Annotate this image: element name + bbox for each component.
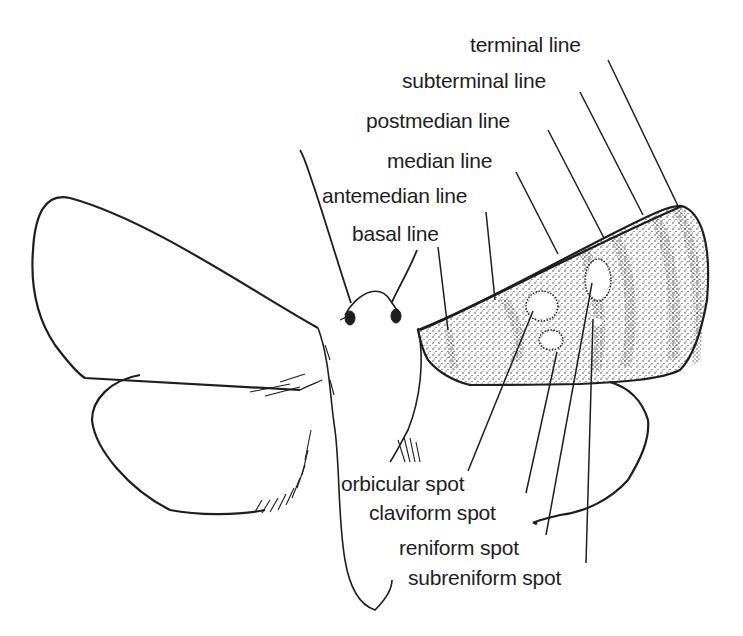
- label-claviform-spot: claviform spot: [369, 502, 496, 524]
- right-antenna: [392, 250, 417, 302]
- left-antenna: [300, 150, 351, 303]
- label-reniform-spot: reniform spot: [399, 537, 519, 559]
- moth-diagram: terminal line subterminal line postmedia…: [0, 0, 743, 636]
- label-subterminal-line: subterminal line: [402, 70, 546, 92]
- label-terminal-line: terminal line: [470, 34, 581, 56]
- label-median-line: median line: [387, 150, 492, 172]
- label-antemedian-line: antemedian line: [322, 185, 467, 207]
- left-forewing: [32, 197, 318, 390]
- moth-illustration: [0, 0, 743, 636]
- right-forewing: [418, 206, 708, 385]
- label-subreniform-spot: subreniform spot: [408, 567, 561, 589]
- orbicular-spot-shape: [528, 293, 556, 319]
- right-eye: [391, 309, 401, 323]
- left-hindwing: [92, 374, 322, 514]
- label-basal-line: basal line: [352, 223, 439, 245]
- claviform-spot-shape: [541, 332, 561, 348]
- left-eye: [345, 311, 355, 325]
- label-postmedian-line: postmedian line: [366, 110, 510, 132]
- label-orbicular-spot: orbicular spot: [341, 473, 464, 495]
